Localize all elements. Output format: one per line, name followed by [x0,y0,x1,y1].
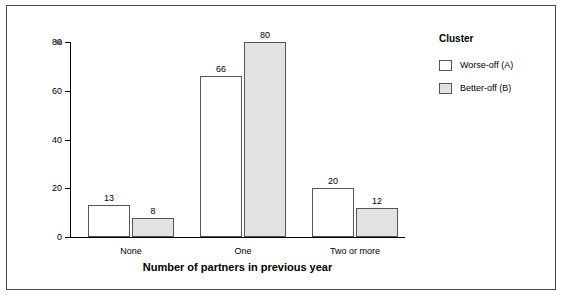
bar-two-or-more-worse-off[interactable]: 20 [312,188,354,237]
legend-swatch-icon [439,83,452,94]
plot-area: 80 60 40 20 0 13 [70,42,405,238]
legend-item-label: Better-off (B) [460,84,511,93]
legend-item-worse-off[interactable]: Worse-off (A) [439,60,547,71]
x-axis-line [70,237,405,238]
chart-figure: % 80 60 40 20 0 [0,0,564,298]
y-axis-line [70,42,71,238]
y-tick-label: 80 [52,38,62,47]
legend: Cluster Worse-off (A) Better-off (B) [439,34,547,106]
bar-value-label: 12 [372,197,382,206]
bar-value-label: 66 [216,65,226,74]
y-tick-label: 20 [52,184,62,193]
x-axis-title: Number of partners in previous year [70,262,405,273]
bar-group-two-or-more: 20 12 [312,42,398,237]
y-tick-mark [65,237,70,238]
x-category-label-one: One [234,247,251,256]
x-category-label-none: None [120,247,142,256]
bar-group-one: 66 80 [200,42,286,237]
legend-item-better-off[interactable]: Better-off (B) [439,83,547,94]
bar-one-better-off[interactable]: 80 [244,42,286,237]
y-tick-label: 0 [57,233,62,242]
bar-two-or-more-better-off[interactable]: 12 [356,208,398,237]
y-tick-label: 40 [52,135,62,144]
bar-one-worse-off[interactable]: 66 [200,76,242,237]
bar-none-worse-off[interactable]: 13 [88,205,130,237]
bar-none-better-off[interactable]: 8 [132,218,174,238]
y-tick-label: 60 [52,86,62,95]
legend-swatch-icon [439,60,452,71]
y-tick-mark [65,188,70,189]
legend-title: Cluster [439,34,547,44]
y-tick-mark [65,91,70,92]
bar-group-none: 13 8 [88,42,174,237]
bar-value-label: 13 [104,194,114,203]
bar-value-label: 80 [260,31,270,40]
bar-value-label: 8 [150,207,155,216]
y-tick-mark [65,42,70,43]
bar-value-label: 20 [328,177,338,186]
x-category-label-two-or-more: Two or more [330,247,380,256]
figure-border: % 80 60 40 20 0 [6,5,556,290]
legend-item-label: Worse-off (A) [460,61,513,70]
y-tick-mark [65,140,70,141]
